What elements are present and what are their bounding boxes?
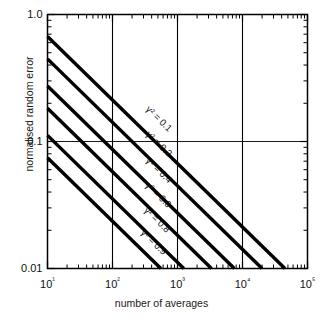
y-tick-label: 0.01 — [21, 262, 42, 274]
x-tick-label: 10² — [105, 276, 120, 290]
x-tick-label: 10³ — [170, 276, 185, 290]
x-tick-label: 10¹ — [40, 276, 55, 290]
curve-label-1: γ² = 0.2 — [144, 128, 175, 158]
chart-figure: 10¹10²10³10⁴10⁵1.00.10.01 γ² = 0.1γ² = 0… — [0, 0, 323, 327]
curve-label-2: γ² = 0.4 — [144, 155, 175, 185]
x-tick-label: 10⁴ — [235, 276, 251, 290]
data-line-3 — [48, 108, 212, 268]
log-log-plot: 10¹10²10³10⁴10⁵1.00.10.01 γ² = 0.1γ² = 0… — [0, 0, 323, 327]
grid-layer — [48, 15, 308, 269]
curve-label-0: γ² = 0.1 — [144, 103, 175, 133]
y-tick-label: 1.0 — [27, 8, 42, 20]
x-tick-label: 10⁵ — [300, 276, 316, 290]
x-axis-title: number of averages — [0, 297, 323, 309]
y-axis-title: normalised random error — [23, 39, 35, 189]
data-line-2 — [48, 86, 235, 269]
